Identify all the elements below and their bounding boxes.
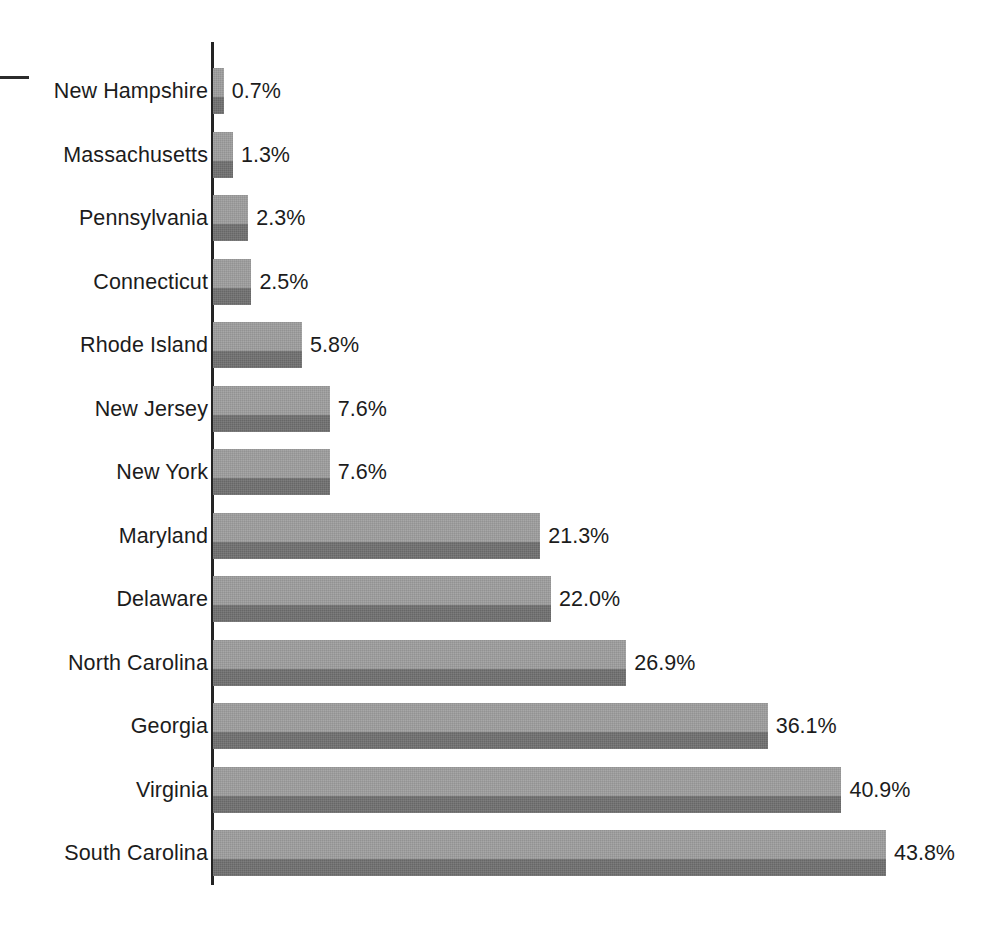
bar-row: Maryland21.3% — [0, 513, 995, 559]
category-label: New York — [116, 449, 208, 495]
bar-value-label: 7.6% — [338, 449, 387, 495]
bar-row: Pennsylvania2.3% — [0, 195, 995, 241]
bar-row: Massachusetts1.3% — [0, 132, 995, 178]
bar-value-label: 2.3% — [256, 195, 305, 241]
bar — [213, 322, 302, 368]
category-label: Connecticut — [93, 259, 208, 305]
bar-row: New Jersey7.6% — [0, 386, 995, 432]
plot-area: New Hampshire0.7%Massachusetts1.3%Pennsy… — [0, 0, 995, 936]
category-label: Georgia — [131, 703, 208, 749]
bar-value-label: 21.3% — [548, 513, 609, 559]
bar-row: Delaware22.0% — [0, 576, 995, 622]
bar-row: New York7.6% — [0, 449, 995, 495]
bar-value-label: 22.0% — [559, 576, 620, 622]
bar-value-label: 40.9% — [849, 767, 910, 813]
bar-value-label: 2.5% — [259, 259, 308, 305]
category-label: Delaware — [116, 576, 208, 622]
bar-value-label: 43.8% — [894, 830, 955, 876]
bar — [213, 703, 768, 749]
bar-row: Rhode Island5.8% — [0, 322, 995, 368]
bar — [213, 576, 551, 622]
bar-value-label: 1.3% — [241, 132, 290, 178]
bar-value-label: 7.6% — [338, 386, 387, 432]
bar — [213, 640, 626, 686]
bar — [213, 830, 886, 876]
category-label: Virginia — [136, 767, 208, 813]
bar-row: New Hampshire0.7% — [0, 68, 995, 114]
bar — [213, 449, 330, 495]
bar — [213, 195, 248, 241]
category-label: Maryland — [119, 513, 208, 559]
category-label: Rhode Island — [80, 322, 208, 368]
category-label: Massachusetts — [63, 132, 208, 178]
bar — [213, 767, 841, 813]
bar — [213, 386, 330, 432]
bar-row: South Carolina43.8% — [0, 830, 995, 876]
bar-value-label: 36.1% — [776, 703, 837, 749]
bar-value-label: 0.7% — [232, 68, 281, 114]
category-label: North Carolina — [68, 640, 208, 686]
bar-row: Georgia36.1% — [0, 703, 995, 749]
bar — [213, 68, 224, 114]
category-label: New Hampshire — [54, 68, 208, 114]
category-label: Pennsylvania — [79, 195, 208, 241]
bar — [213, 513, 540, 559]
bar-row: North Carolina26.9% — [0, 640, 995, 686]
bar-value-label: 26.9% — [634, 640, 695, 686]
bar — [213, 132, 233, 178]
category-label: New Jersey — [95, 386, 208, 432]
bar-chart: New Hampshire0.7%Massachusetts1.3%Pennsy… — [0, 0, 995, 936]
category-label: South Carolina — [64, 830, 208, 876]
bar-value-label: 5.8% — [310, 322, 359, 368]
bar-row: Virginia40.9% — [0, 767, 995, 813]
bar — [213, 259, 251, 305]
bar-row: Connecticut2.5% — [0, 259, 995, 305]
